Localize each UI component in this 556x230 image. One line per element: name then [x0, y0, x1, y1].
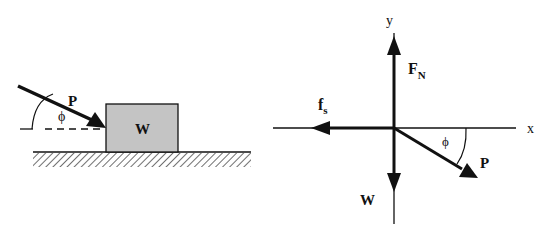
friction-force-label: fs: [318, 96, 328, 116]
applied-force-arrowhead: [459, 163, 478, 178]
ground-hatch: [33, 153, 251, 167]
angle-label: ϕ: [442, 134, 449, 149]
block-label: W: [135, 121, 150, 137]
force-p-label: P: [68, 93, 77, 109]
x-axis-label: x: [527, 121, 534, 136]
force-p-arrow-shaft: [18, 86, 92, 120]
applied-force-shaft: [394, 128, 462, 169]
block-on-ground-diagram: W ϕ P: [18, 86, 251, 167]
weight-arrowhead: [387, 173, 401, 192]
weight-label: W: [360, 192, 375, 208]
free-body-diagram: x y FN fs W P ϕ: [273, 13, 534, 224]
normal-force-arrowhead: [387, 36, 401, 55]
friction-force-arrowhead: [311, 121, 330, 135]
applied-force-label: P: [480, 155, 489, 171]
angle-arc: [457, 128, 466, 164]
y-axis-label: y: [386, 13, 393, 28]
physics-diagram: W ϕ P x y FN fs W: [0, 0, 556, 230]
normal-force-label: FN: [408, 60, 426, 81]
angle-label: ϕ: [58, 109, 65, 124]
